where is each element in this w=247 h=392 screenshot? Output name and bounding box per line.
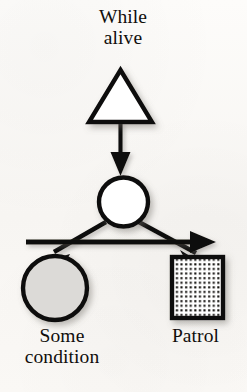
some-condition-circle-shape[interactable] <box>23 256 87 320</box>
some-condition-label: Some condition <box>0 325 124 367</box>
patrol-label: Patrol <box>144 325 247 346</box>
diagram-canvas: While alive Some condition Patrol <box>0 0 247 392</box>
start-triangle-label: While alive <box>52 6 194 48</box>
edge-circle-to-condition-line <box>54 222 106 252</box>
patrol-square-shape[interactable] <box>172 257 223 318</box>
edge-triangle-to-circle-arrowhead <box>111 152 131 176</box>
node-patrol[interactable] <box>172 257 223 318</box>
node-decision-circle[interactable] <box>99 178 148 227</box>
decision-circle-shape[interactable] <box>99 178 148 227</box>
node-start-triangle[interactable] <box>89 70 152 122</box>
fork-bar-arrowhead <box>190 231 216 253</box>
edge-triangle-to-circle <box>111 122 131 176</box>
node-some-condition[interactable] <box>23 256 87 320</box>
edge-circle-to-patrol-line <box>137 221 196 253</box>
start-triangle-shape[interactable] <box>89 70 152 122</box>
